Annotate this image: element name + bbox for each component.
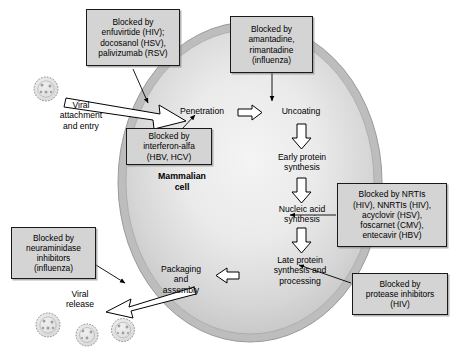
callout-line: palivizumab (RSV) <box>98 48 167 58</box>
pointer-neuraminidase-inhibitors <box>96 265 125 283</box>
callout-line: Blocked by NRTIs <box>359 189 426 199</box>
stage-line: Viral <box>50 289 110 299</box>
stage-label-packaging-and-assembly: Packaging and assembly <box>148 264 214 295</box>
virion-free-1 <box>34 77 58 101</box>
callout-blocked-by-entry-inhibitors[interactable]: Blocked by enfuvirtide (HIV); docosanol … <box>86 9 180 66</box>
callout-line: (HIV), NNRTIs (HIV), <box>353 200 431 210</box>
stage-line: Packaging <box>148 264 214 274</box>
callout-line: neuraminidase <box>26 243 81 253</box>
callout-line: foscarnet (CMV), <box>360 220 423 230</box>
stage-label-viral-attachment-and-entry: Viral attachment and entry <box>45 100 117 131</box>
stage-line: synthesis <box>258 162 346 172</box>
virion-released-2 <box>76 324 98 346</box>
stage-label-early-protein-synthesis: Early protein synthesis <box>258 152 346 173</box>
callout-line: Blocked by <box>380 279 421 289</box>
stage-label-nucleic-acid-synthesis: Nucleic acid synthesis <box>258 204 346 225</box>
callout-blocked-by-protease-inhibitors[interactable]: Blocked by protease inhibitors (HIV) <box>352 273 448 315</box>
figure-canvas: Blocked by enfuvirtide (HIV); docosanol … <box>0 0 456 355</box>
callout-line: (influenza) <box>252 55 291 65</box>
stage-line: processing <box>251 276 349 286</box>
callout-line: Blocked by <box>113 17 154 27</box>
cell-label-line: cell <box>139 182 225 193</box>
callout-line: Blocked by <box>149 131 190 141</box>
stage-label-viral-release: Viral release <box>50 289 110 310</box>
cell-label-line: Mammalian <box>139 171 225 182</box>
callout-line: docosanol (HSV), <box>100 38 166 48</box>
stage-line: attachment <box>45 110 117 120</box>
stage-line: Penetration <box>168 106 236 116</box>
callout-line: (HIV) <box>390 299 410 309</box>
stage-label-late-protein-synthesis-and-processing: Late protein synthesis and processing <box>251 255 349 286</box>
stage-line: and entry <box>45 121 117 131</box>
stage-label-penetration: Penetration <box>168 106 236 116</box>
callout-line: inhibitors <box>37 253 71 263</box>
stage-line: synthesis <box>258 214 346 224</box>
callout-line: entecavir (HBV) <box>362 230 421 240</box>
stage-line: Uncoating <box>268 106 334 116</box>
callout-blocked-by-neuraminidase-inhibitors[interactable]: Blocked by neuraminidase inhibitors (inf… <box>11 227 96 279</box>
callout-line: Blocked by <box>33 233 74 243</box>
callout-line: protease inhibitors <box>366 289 434 299</box>
callout-blocked-by-nucleic-acid-synthesis-inhibitors[interactable]: Blocked by NRTIs (HIV), NNRTIs (HIV), ac… <box>337 183 447 247</box>
virion-released-3 <box>112 319 135 342</box>
callout-line: amantadine, <box>248 34 294 44</box>
stage-line: and <box>148 274 214 284</box>
stage-line: assembly <box>148 285 214 295</box>
callout-line: enfuvirtide (HIV); <box>102 27 165 37</box>
stage-line: Early protein <box>258 152 346 162</box>
callout-line: rimantadine <box>250 45 294 55</box>
stage-line: release <box>50 299 110 309</box>
cell-type-label: Mammalian cell <box>139 171 225 192</box>
stage-label-uncoating: Uncoating <box>268 106 334 116</box>
callout-blocked-by-uncoating-inhibitors[interactable]: Blocked by amantadine, rimantadine (infl… <box>230 16 313 73</box>
callout-line: Blocked by <box>251 24 292 34</box>
callout-blocked-by-interferon-alfa[interactable]: Blocked by interferon-alfa (HBV, HCV) <box>126 128 212 165</box>
virion-released-1 <box>36 313 60 337</box>
callout-line: (influenza) <box>34 263 73 273</box>
stage-line: Viral <box>45 100 117 110</box>
stage-line: synthesis and <box>251 265 349 275</box>
callout-line: acyclovir (HSV), <box>362 210 422 220</box>
stage-line: Late protein <box>251 255 349 265</box>
stage-line: Nucleic acid <box>258 204 346 214</box>
callout-line: (HBV, HCV) <box>147 152 191 162</box>
callout-line: interferon-alfa <box>143 141 195 151</box>
